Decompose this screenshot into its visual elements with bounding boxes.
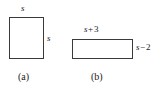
figure-canvas: s s (a) s+3 s−2 (b) (0, 0, 165, 94)
rectangle-top-side-operator: + (88, 24, 94, 34)
caption-a: (a) (18, 72, 29, 82)
caption-b: (b) (91, 72, 103, 82)
square-top-side-variable: s (21, 3, 25, 13)
square-top-side-label: s (21, 4, 25, 13)
rectangle-right-side-operator: − (140, 42, 146, 52)
square-shape (9, 17, 44, 59)
rectangle-right-side-label: s−2 (136, 43, 151, 52)
rectangle-right-side-variable: s (136, 42, 140, 52)
square-right-side-label: s (47, 34, 51, 43)
rectangle-top-side-operand: 3 (94, 24, 100, 34)
rectangle-shape (72, 39, 133, 59)
square-right-side-variable: s (47, 33, 51, 43)
rectangle-right-side-operand: 2 (146, 42, 152, 52)
rectangle-top-side-label: s+3 (84, 25, 99, 34)
rectangle-top-side-variable: s (84, 24, 88, 34)
